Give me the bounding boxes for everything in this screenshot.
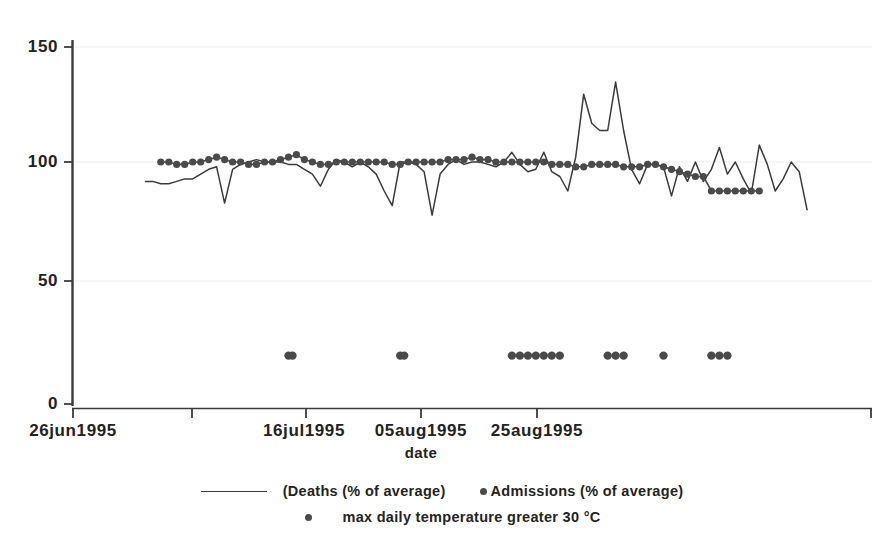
legend-label-temperature: max daily temperature greater 30 °C: [342, 509, 600, 525]
axis-lines: [72, 40, 872, 409]
ytick-label-100: 100: [0, 152, 58, 172]
legend-item-admissions: Admissions (% of average): [480, 483, 684, 499]
legend-item-deaths: (Deaths (% of average): [201, 483, 446, 499]
series-temperature-markers: [284, 351, 731, 359]
temperature-dot-key-icon: [305, 514, 312, 521]
chart-legend: (Deaths (% of average) Admissions (% of …: [0, 478, 884, 530]
x-axis-title: date: [346, 444, 496, 461]
line-key-icon: [201, 491, 267, 492]
legend-item-temperature: max daily temperature greater 30 °C: [283, 509, 600, 525]
chart-figure: 150 100 50 0 26jun1995 16jul1995 05aug19…: [0, 0, 884, 541]
legend-row-1: (Deaths (% of average) Admissions (% of …: [0, 478, 884, 504]
series-admissions-line: [161, 155, 760, 191]
legend-label-admissions: Admissions (% of average): [491, 483, 684, 499]
legend-label-deaths: (Deaths (% of average): [283, 483, 446, 499]
xtick-label-26jun1995: 26jun1995: [0, 421, 149, 441]
series-deaths-line: [145, 82, 807, 215]
x-axis-ticks: [73, 408, 871, 418]
dot-key-icon: [480, 488, 487, 495]
ytick-label-50: 50: [0, 271, 58, 291]
legend-row-2: max daily temperature greater 30 °C: [0, 504, 884, 530]
xtick-label-25aug1995: 25aug1995: [461, 421, 613, 441]
series-admissions-markers: [157, 151, 763, 195]
ytick-label-150: 150: [0, 37, 58, 57]
ytick-label-0: 0: [0, 394, 58, 414]
